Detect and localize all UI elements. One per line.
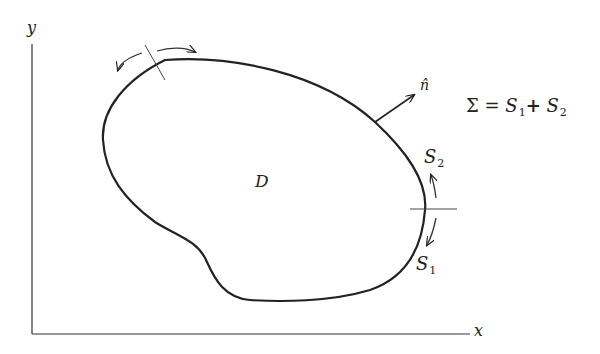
diagram-canvas: y x D n̂ S2 S1 Σ = S1+ S2 <box>0 0 600 354</box>
diagram-svg <box>0 0 600 354</box>
top-arrow-right <box>157 48 195 52</box>
region-label: D <box>255 173 269 190</box>
surface-equation: Σ = S1+ S2 <box>466 97 567 118</box>
normal-vector-arrow <box>375 95 414 122</box>
s1-direction-arrow <box>427 218 436 245</box>
x-axis-label: x <box>474 323 483 339</box>
normal-label: n̂ <box>420 78 429 92</box>
top-arrow-left <box>118 53 142 70</box>
s2-direction-arrow <box>431 175 436 198</box>
s1-label: S1 <box>416 255 436 276</box>
y-axis-label: y <box>27 20 36 36</box>
s2-label: S2 <box>424 148 444 169</box>
